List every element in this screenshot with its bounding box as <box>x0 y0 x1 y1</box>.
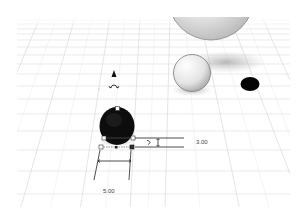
top-handle[interactable] <box>116 107 120 111</box>
small-sphere[interactable] <box>174 55 211 92</box>
corner-handle-back-left[interactable] <box>102 136 106 140</box>
hole-disc[interactable] <box>241 77 260 91</box>
3d-viewport[interactable]: 3.00 5.00 <box>0 0 305 219</box>
edge-handle-front[interactable] <box>115 146 118 149</box>
lift-arrow-icon[interactable] <box>112 70 117 77</box>
height-dimension <box>135 138 184 147</box>
width-dimension <box>94 150 131 180</box>
workplane-grid <box>0 0 305 219</box>
corner-handle-front-right[interactable] <box>130 145 134 149</box>
corner-handle-front-left[interactable] <box>99 145 103 149</box>
width-dimension-label[interactable]: 5.00 <box>103 188 115 194</box>
height-dimension-label[interactable]: 3.00 <box>196 139 208 145</box>
corner-handle-back-right[interactable] <box>131 136 135 140</box>
